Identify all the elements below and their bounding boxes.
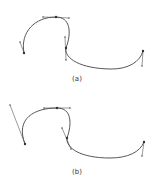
handle-point-icon xyxy=(43,107,45,109)
bezier-curve xyxy=(22,108,144,158)
handle-point-icon xyxy=(69,107,71,109)
handle-point-icon xyxy=(9,104,11,106)
anchor-node-icon xyxy=(66,137,68,139)
handle-point-icon xyxy=(61,127,63,129)
handle-point-icon xyxy=(64,36,66,38)
anchor-node-icon xyxy=(142,50,144,52)
anchor-node-icon xyxy=(65,47,67,49)
handle-point-icon xyxy=(68,17,70,19)
anchor-node-icon xyxy=(24,143,26,145)
anchor-node-icon xyxy=(143,141,145,143)
bezier-diagram xyxy=(0,0,153,189)
handle-point-icon xyxy=(19,41,21,43)
handle-point-icon xyxy=(65,59,67,61)
handle-point-icon xyxy=(141,65,143,67)
anchor-node-icon xyxy=(56,107,58,109)
panel-a xyxy=(19,16,144,69)
panel-a-label: (a) xyxy=(62,75,92,83)
handle-point-icon xyxy=(141,155,143,157)
anchor-node-icon xyxy=(55,16,57,18)
panel-b-label: (b) xyxy=(62,168,92,176)
anchor-node-icon xyxy=(23,52,25,54)
panel-b xyxy=(9,104,145,158)
handle-point-icon xyxy=(70,148,72,150)
bezier-curve xyxy=(23,17,143,69)
handle-point-icon xyxy=(42,16,44,18)
